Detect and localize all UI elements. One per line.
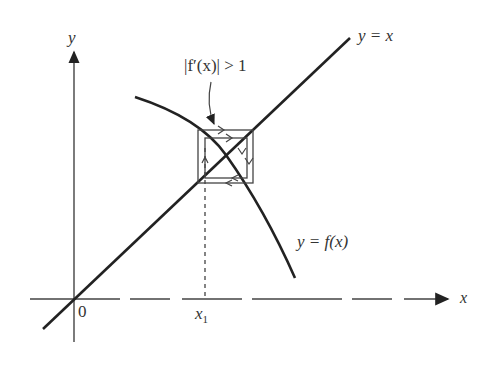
derivative-annotation: |f′(x)| > 1	[184, 56, 247, 76]
identity-line	[43, 38, 350, 329]
function-curve-label: y = f(x)	[297, 232, 348, 252]
x1-tick-label: x1	[195, 304, 208, 325]
y-axis-label: y	[68, 28, 76, 48]
annotation-pointer	[209, 82, 214, 124]
identity-line-label: y = x	[358, 26, 393, 46]
x-axis-label: x	[460, 289, 467, 307]
function-curve	[135, 97, 295, 278]
origin-label: 0	[78, 302, 87, 322]
